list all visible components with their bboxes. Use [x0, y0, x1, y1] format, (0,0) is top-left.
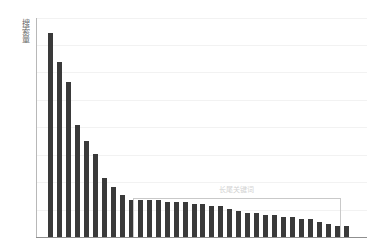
bar: [93, 154, 98, 237]
bar: [147, 200, 152, 237]
bar: [120, 195, 125, 237]
bar: [227, 209, 232, 237]
bar: [236, 211, 241, 237]
plot-area: [36, 18, 367, 237]
bar: [156, 200, 161, 237]
bar: [272, 215, 277, 237]
bar: [102, 178, 107, 237]
x-axis-line: [36, 237, 367, 238]
bar: [57, 62, 62, 237]
bar: [344, 226, 349, 237]
bar: [192, 204, 197, 237]
bar: [183, 202, 188, 237]
bar: [209, 206, 214, 237]
bar: [129, 200, 134, 237]
bar: [48, 33, 53, 237]
bar: [326, 224, 331, 237]
bar: [290, 217, 295, 237]
bar: [200, 204, 205, 237]
bar: [317, 222, 322, 237]
bar: [66, 82, 71, 237]
bar: [308, 219, 313, 237]
bar: [335, 226, 340, 237]
bar: [254, 213, 259, 237]
bar: [111, 187, 116, 237]
bar: [75, 125, 80, 237]
bar: [281, 217, 286, 237]
bar: [299, 219, 304, 237]
y-axis-label: 搜索量: [17, 19, 29, 43]
bar: [165, 202, 170, 237]
bar: [218, 206, 223, 237]
bar: [174, 202, 179, 237]
bar: [84, 141, 89, 237]
bar: [245, 213, 250, 237]
bar: [138, 200, 143, 237]
long-tail-annotation-label: 长尾关键词: [196, 186, 276, 195]
bar: [263, 215, 268, 237]
chart-screenshot: 搜索量 长尾关键词: [0, 0, 369, 251]
